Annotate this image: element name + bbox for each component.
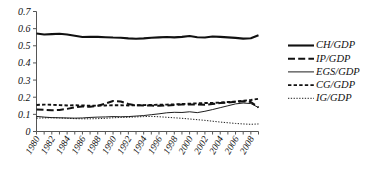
y-axis-ticks: 00.10.20.30.40.50.60.7	[18, 6, 37, 137]
y-tick-label: 0.5	[18, 40, 31, 51]
data-series-group	[37, 33, 259, 124]
x-tick-label: 2000	[177, 134, 195, 156]
x-tick-label: 1986	[70, 134, 88, 156]
x-tick-label: 1990	[100, 134, 118, 156]
x-tick-label: 2008	[238, 134, 256, 156]
axis-frame	[37, 12, 259, 132]
y-tick-label: 0	[26, 126, 31, 137]
chart-container: 00.10.20.30.40.50.60.7 19801982198419861…	[0, 0, 373, 174]
y-tick-label: 0.1	[18, 109, 31, 120]
x-tick-label: 1992	[115, 134, 133, 156]
x-tick-label: 2002	[192, 134, 210, 156]
x-tick-label: 1982	[39, 134, 57, 156]
legend-label-egs-gdp: EGS/GDP	[315, 66, 360, 77]
y-tick-label: 0.3	[18, 75, 31, 86]
x-tick-label: 2004	[207, 134, 225, 156]
series-line-ch-gdp	[37, 33, 259, 38]
chart-axes	[37, 12, 259, 132]
x-tick-label: 1994	[131, 134, 149, 156]
legend-label-ch-gdp: CH/GDP	[316, 39, 356, 50]
y-tick-label: 0.4	[18, 57, 31, 68]
x-tick-label: 1980	[24, 134, 42, 156]
x-tick-label: 1996	[146, 134, 164, 156]
x-tick-label: 2006	[223, 134, 241, 156]
legend-label-ig-gdp: IG/GDP	[315, 92, 352, 103]
y-tick-label: 0.2	[18, 92, 31, 103]
x-tick-label: 1988	[85, 134, 103, 156]
x-tick-label: 1998	[161, 134, 179, 156]
y-tick-label: 0.6	[18, 23, 31, 34]
y-tick-label: 0.7	[18, 6, 32, 17]
x-tick-label: 1984	[54, 134, 72, 156]
line-chart: 00.10.20.30.40.50.60.7 19801982198419861…	[0, 0, 373, 174]
legend-label-cg-gdp: CG/GDP	[316, 79, 356, 90]
x-axis-ticks: 1980198219841986198819901992199419961998…	[24, 132, 259, 156]
legend-label-ip-gdp: IP/GDP	[315, 53, 351, 64]
chart-legend: CH/GDPIP/GDPEGS/GDPCG/GDPIG/GDP	[288, 39, 360, 103]
series-line-ip-gdp	[37, 101, 259, 110]
